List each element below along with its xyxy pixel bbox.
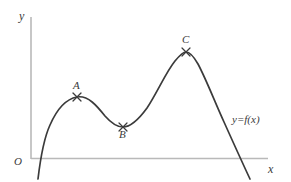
origin-label: O: [14, 156, 22, 167]
graph-canvas: [0, 0, 291, 182]
point-label-c: C: [182, 34, 189, 45]
function-graph-figure: y x O A B C y=f(x): [0, 0, 291, 182]
function-curve: [38, 52, 250, 179]
curve-equation-label: y=f(x): [232, 114, 260, 125]
point-label-b: B: [119, 129, 126, 140]
point-label-a: A: [73, 80, 80, 91]
x-axis-label: x: [268, 163, 273, 175]
y-axis-label: y: [19, 10, 24, 22]
